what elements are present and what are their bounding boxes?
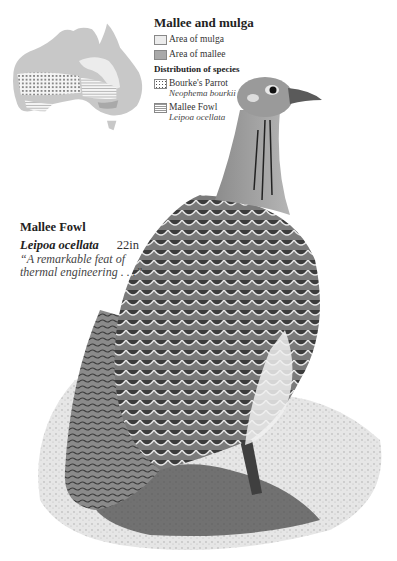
legend-item-mallee: Area of mallee [154, 49, 304, 60]
quote-line-2: thermal engineering . . .” [20, 266, 180, 279]
hatched-swatch-icon [154, 103, 167, 113]
mallee-swatch-icon [154, 50, 167, 60]
common-name: Mallee Fowl [20, 220, 180, 235]
species-caption: Mallee Fowl Leipoa ocellata 22in “A rema… [20, 220, 180, 279]
legend-item-mulga: Area of mulga [154, 34, 304, 45]
legend-species-fowl: Mallee Fowl Leipoa ocellata [154, 102, 304, 122]
mulga-swatch-icon [154, 35, 167, 45]
legend-label: Area of mulga [169, 34, 224, 44]
species-latin: Leipoa ocellata [169, 112, 225, 122]
legend-title: Mallee and mulga [154, 15, 304, 31]
species-label: Mallee Fowl [169, 102, 217, 112]
australia-distribution-map [6, 14, 151, 136]
species-latin: Neophema bourkii [169, 88, 236, 98]
dotted-swatch-icon [154, 79, 167, 89]
size-label: 22in [117, 238, 139, 252]
legend-label: Area of mallee [169, 49, 225, 59]
legend-species-bourke: Bourke's Parrot Neophema bourkii [154, 78, 304, 98]
latin-name: Leipoa ocellata [20, 238, 99, 252]
map-legend: Mallee and mulga Area of mulga Area of m… [154, 15, 304, 126]
species-label: Bourke's Parrot [169, 78, 228, 88]
legend-subtitle: Distribution of species [154, 64, 304, 74]
